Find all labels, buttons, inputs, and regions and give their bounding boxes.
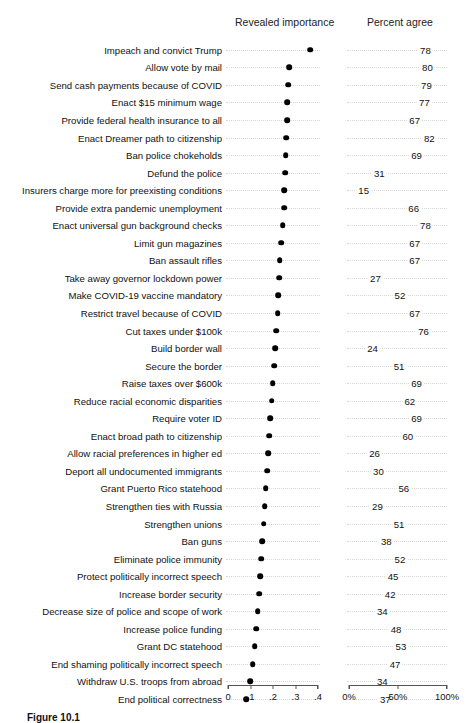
row-guide-importance (226, 506, 320, 507)
percent-agree-value: 67 (407, 114, 422, 125)
chart-row: Enact $15 minimum wage77 (0, 94, 471, 112)
importance-dot (264, 468, 270, 474)
axis-tick (250, 685, 251, 689)
row-guide-importance (226, 138, 320, 139)
row-label: Provide federal health insurance to all (61, 114, 222, 125)
importance-dot (286, 65, 292, 71)
percent-agree-value: 69 (409, 150, 424, 161)
column-header-revealed-importance: Revealed importance (235, 16, 334, 28)
row-guide-importance (226, 471, 320, 472)
axis-tick-label: .2 (269, 691, 277, 702)
row-guide-percent (347, 348, 447, 349)
row-guide-percent (347, 541, 447, 542)
row-label: Provide extra pandemic unemployment (56, 202, 222, 213)
row-label: Reduce racial economic disparities (74, 395, 222, 406)
percent-agree-value: 30 (371, 465, 386, 476)
chart-row: Insurers charge more for preexisting con… (0, 181, 471, 199)
chart-row: Allow vote by mail80 (0, 59, 471, 77)
row-guide-importance (226, 120, 320, 121)
importance-dot (270, 380, 276, 386)
row-guide-percent (347, 120, 447, 121)
chart-row: Strengthen unions51 (0, 515, 471, 533)
row-label: Enact universal gun background checks (52, 220, 222, 231)
axis-tick-label: .4 (314, 691, 322, 702)
row-guide-importance (226, 576, 320, 577)
row-guide-percent (347, 331, 447, 332)
importance-dot (281, 205, 287, 211)
x-axis-percent-agree: 0%50%100% (349, 685, 447, 707)
percent-agree-value: 29 (370, 500, 385, 511)
chart-row: Cut taxes under $100k76 (0, 322, 471, 340)
row-guide-importance (226, 629, 320, 630)
row-guide-percent (347, 102, 447, 103)
percent-agree-value: 38 (379, 536, 394, 547)
chart-row: Grant DC statehood53 (0, 638, 471, 656)
chart-row: Ban assault rifles67 (0, 252, 471, 270)
axis-tick-label: 0 (225, 691, 230, 702)
importance-dot (283, 152, 289, 158)
importance-dot (252, 644, 258, 650)
row-label: Allow racial preferences in higher ed (67, 448, 222, 459)
chart-rows: Impeach and convict Trump78Allow vote by… (0, 41, 471, 708)
chart-row: Provide federal health insurance to all6… (0, 111, 471, 129)
row-label: Deport all undocumented immigrants (65, 465, 222, 476)
chart-row: Raise taxes over $600k69 (0, 374, 471, 392)
importance-dot (247, 679, 253, 685)
percent-agree-value: 62 (402, 395, 417, 406)
importance-dot (276, 275, 282, 281)
percent-agree-value: 48 (389, 623, 404, 634)
percent-agree-value: 79 (419, 79, 434, 90)
row-guide-percent (347, 243, 447, 244)
importance-dot (283, 135, 289, 141)
row-guide-percent (347, 383, 447, 384)
row-guide-importance (226, 243, 320, 244)
chart-row: Protect politically incorrect speech45 (0, 567, 471, 585)
percent-agree-value: 78 (418, 44, 433, 55)
importance-dot (254, 626, 260, 632)
row-guide-importance (226, 646, 320, 647)
row-label: Protect politically incorrect speech (77, 571, 222, 582)
row-label: Require voter ID (152, 413, 222, 424)
percent-agree-value: 67 (407, 237, 422, 248)
importance-dot (250, 661, 256, 667)
row-label: End political correctness (118, 694, 222, 705)
row-label: Limit gun magazines (134, 237, 222, 248)
percent-agree-value: 76 (416, 325, 431, 336)
row-label: Insurers charge more for preexisting con… (22, 185, 222, 196)
chart-row: Defund the police31 (0, 164, 471, 182)
importance-dot (285, 100, 291, 106)
row-guide-importance (226, 50, 320, 51)
row-guide-importance (226, 102, 320, 103)
chart-row: Provide extra pandemic unemployment66 (0, 199, 471, 217)
percent-agree-value: 67 (407, 307, 422, 318)
chart-row: Require voter ID69 (0, 409, 471, 427)
chart-row: Eliminate police immunity52 (0, 550, 471, 568)
row-guide-importance (226, 541, 320, 542)
percent-agree-value: 34 (375, 606, 390, 617)
importance-dot (277, 258, 283, 264)
chart-row: Impeach and convict Trump78 (0, 41, 471, 59)
percent-agree-value: 15 (356, 185, 371, 196)
axis-tick (295, 685, 296, 689)
row-label: Enact $15 minimum wage (112, 97, 222, 108)
row-label: Restrict travel because of COVID (81, 307, 222, 318)
importance-dot (255, 608, 261, 614)
percent-agree-value: 31 (372, 167, 387, 178)
row-guide-importance (226, 155, 320, 156)
importance-dot (286, 82, 292, 88)
importance-dot (307, 47, 313, 53)
axis-tick-label: 100% (435, 691, 459, 702)
row-guide-importance (226, 611, 320, 612)
row-guide-percent (347, 278, 447, 279)
chart-row: Enact universal gun background checks78 (0, 216, 471, 234)
axis-tick-label: 50% (389, 691, 408, 702)
importance-dot (269, 398, 275, 404)
row-label: Ban assault rifles (149, 255, 222, 266)
row-label: Enact broad path to citizenship (91, 430, 222, 441)
row-label: Take away governor lockdown power (65, 272, 222, 283)
row-label: Impeach and convict Trump (104, 44, 222, 55)
percent-agree-value: 52 (393, 290, 408, 301)
percent-agree-value: 42 (383, 588, 398, 599)
row-label: Eliminate police immunity (114, 553, 222, 564)
row-label: Withdraw U.S. troops from abroad (77, 676, 222, 687)
